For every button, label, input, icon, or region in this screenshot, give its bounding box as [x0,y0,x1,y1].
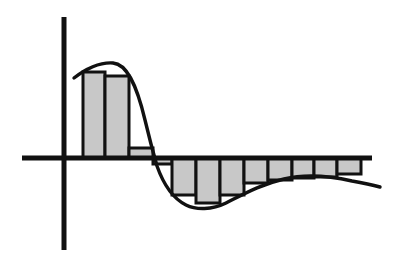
bar-6 [220,158,244,195]
bar-4 [172,158,196,195]
bar-7 [244,158,268,183]
bar-0 [83,72,105,158]
plot-canvas [0,0,398,267]
figure-root [0,0,398,267]
bar-10 [314,158,337,177]
bar-5 [196,158,220,203]
bar-1 [105,76,129,158]
plot-background [0,0,398,267]
